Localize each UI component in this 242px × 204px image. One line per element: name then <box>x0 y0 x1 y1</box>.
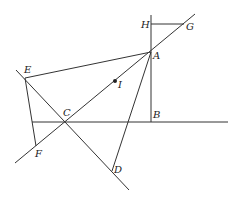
label-I: I <box>117 79 123 90</box>
label-E: E <box>23 64 32 75</box>
label-D: D <box>113 164 122 175</box>
segment-AD <box>112 52 151 171</box>
line-FG <box>15 14 195 163</box>
label-F: F <box>34 148 43 159</box>
label-C: C <box>63 107 71 118</box>
label-H: H <box>140 19 150 30</box>
label-A: A <box>152 50 160 61</box>
geometry-diagram: H G A E I C B F D <box>0 0 242 204</box>
segment-AE <box>25 52 151 78</box>
segment-EF <box>25 78 36 146</box>
label-G: G <box>186 21 194 32</box>
label-B: B <box>152 109 160 120</box>
point-I-dot <box>113 79 117 83</box>
